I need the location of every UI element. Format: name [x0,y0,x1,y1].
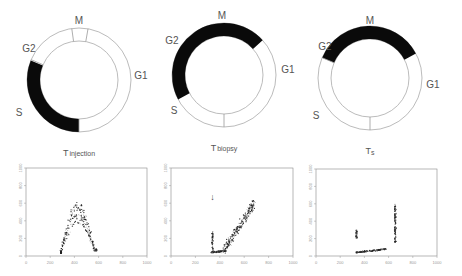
scatter-point [90,238,91,239]
scatter-point [223,247,224,248]
scatter-point [249,208,250,209]
scatter-point [90,240,91,241]
scatter-point [247,218,248,219]
y-tick-label: 200 [163,234,168,241]
scatter-point [226,242,227,243]
scatter-point [225,250,226,251]
x-tick-label: 200 [47,260,54,265]
scatter-point [91,238,92,239]
scatter-point [83,210,84,211]
scatter-point [63,243,64,244]
scatter-point [226,243,227,244]
scatter-point [60,250,61,251]
scatter-point [253,205,254,206]
cycle-ring-inner [40,41,118,119]
y-tick-label: 600 [308,200,313,207]
scatter-plot-1: 0200400600800100002004006008001000 [18,163,152,265]
scatter-point [228,245,229,246]
scatter-point [231,236,232,237]
scatter-point [88,226,89,227]
scatter-point [64,240,65,241]
y-tick-label: 0 [163,254,168,257]
scatter-point [236,232,237,233]
scatter-point [61,252,62,253]
scatter-point [249,216,250,217]
scatter-point [214,252,215,253]
scatter-point [243,221,244,222]
scatter-point [249,210,250,211]
scatter-point [230,238,231,239]
x-tick-label: 600 [241,260,248,265]
scatter-point [231,242,232,243]
scatter-point [81,216,82,217]
y-tick-label: 1000 [308,164,313,174]
scatter-point [221,251,222,252]
scatter-point [76,204,77,205]
scatter-point [231,234,232,235]
x-tick-label: 800 [119,260,126,265]
y-tick-label: 800 [308,182,313,189]
scatter-point [242,220,243,221]
scatter-point [68,227,69,228]
scatter-point [61,248,62,249]
scatter-point [82,210,83,211]
panel-2: MG2G1STbiopsy [165,10,295,153]
scatter-point [63,239,64,240]
scatter-point [357,230,358,231]
scatter-point [233,234,234,235]
scatter-point [212,244,213,245]
scatter-point [252,211,253,212]
scatter-point [82,218,83,219]
cycle-boundary-tick [72,29,74,42]
scatter-point [86,231,87,232]
scatter-point [212,234,213,235]
scatter-point [240,223,241,224]
panel-title: Tinjection [63,148,95,158]
scatter-point [89,232,90,233]
scatter-point [245,212,246,213]
scatter-point [254,208,255,209]
scatter-point [394,215,395,216]
scatter-point [238,223,239,224]
scatter-point [89,228,90,229]
panel-3: MG2G1STs [313,15,440,156]
scatter-point [229,241,230,242]
scatter-point [93,247,94,248]
cell-cycle-figure: MG2G1STinjection020040060080010000200400… [0,0,462,276]
scatter-point [242,221,243,222]
scatter-point [233,229,234,230]
x-tick-label: 200 [337,260,344,265]
arrow-annotation: ↓ [210,192,215,202]
scatter-point [213,231,214,232]
scatter-point [245,214,246,215]
scatter-point [83,226,84,227]
plot-frame [171,168,293,256]
plot-frame [26,168,147,256]
x-tick-label: 1000 [289,260,299,265]
scatter-point [213,243,214,244]
cycle-highlight-arc [27,61,79,132]
scatter-point [226,247,227,248]
phase-label-s: S [16,107,23,118]
scatter-point [212,233,213,234]
scatter-point [240,227,241,228]
scatter-point [70,221,71,222]
scatter-point [238,233,239,234]
scatter-point [219,251,220,252]
plot-frame [316,169,437,256]
scatter-point [61,245,62,246]
y-tick-label: 400 [163,217,168,224]
panel-title-sub: biopsy [217,145,238,153]
scatter-point [81,204,82,205]
scatter-point [246,220,247,221]
scatter-point [229,239,230,240]
scatter-point [228,238,229,239]
scatter-point [80,210,81,211]
scatter-point [394,241,395,242]
scatter-point [67,228,68,229]
scatter-point [70,232,71,233]
scatter-point [360,251,361,252]
x-tick-label: 1000 [433,260,443,265]
y-tick-label: 600 [18,199,23,206]
cycle-highlight-arc [322,26,416,63]
